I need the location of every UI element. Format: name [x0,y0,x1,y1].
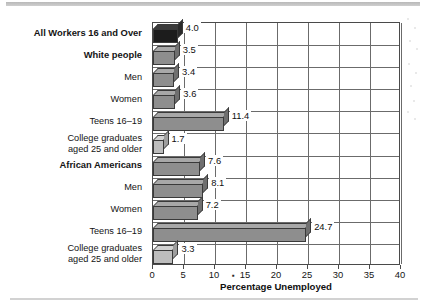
speck-3 [416,48,418,50]
category-label-6: African Americans [60,160,143,171]
speck-4 [408,63,410,65]
bar-0 [153,29,178,43]
x-tick-label-35: 35 [364,269,374,281]
bar-side-face [198,196,203,215]
bar-9 [153,228,306,242]
bar-front-face [153,117,224,131]
category-label-1: White people [84,50,142,61]
bar-side-face [203,174,208,193]
bar-side-face [173,240,178,259]
value-label-4: 11.4 [230,110,252,121]
bar-2 [153,73,174,87]
x-tick-label-5: 5 [180,269,185,281]
speck-8 [407,111,409,113]
category-label-column: All Workers 16 and OverWhite peopleMenWo… [0,22,148,265]
speck-7 [413,100,415,102]
bar-side-face [175,41,180,60]
bar-5 [153,140,164,154]
value-label-2: 3.4 [180,66,197,77]
bar-front-face [153,206,198,220]
page-bottom-rule [10,298,418,300]
speck-2 [409,40,411,42]
speck-9 [414,118,416,120]
bar-3 [153,95,175,109]
category-label-10: College graduates aged 25 and older [67,243,142,264]
speck-0 [407,18,409,20]
bar-8 [153,206,198,220]
category-label-0: All Workers 16 and Over [34,28,142,39]
bar-front-face [153,95,175,109]
bar-side-face [200,152,205,171]
gridline-row-5 [153,133,399,134]
bar-side-face [175,85,180,104]
speck-1 [414,27,416,29]
scan-artifact-mark: ▪ [232,271,235,280]
bar-side-face [178,19,183,38]
bar-7 [153,184,203,198]
bar-side-face [174,63,179,82]
value-label-1: 3.5 [181,44,198,55]
scan-speckle [405,14,419,124]
bar-front-face [153,162,200,176]
x-tick-label-10: 10 [209,269,219,281]
speck-6 [410,85,412,87]
x-tick-label-25: 25 [302,269,312,281]
bar-front-face [153,73,174,87]
bar-front-face [153,29,178,43]
x-axis-title: Percentage Unemployed [152,281,400,292]
plot-area [152,22,400,265]
value-label-7: 8.1 [209,177,226,188]
gridline-x-35 [370,23,371,264]
bar-front-face [153,51,175,65]
category-label-9: Teens 16–19 [89,226,142,237]
bar-front-face [153,228,306,242]
category-label-2: Men [124,72,142,83]
unemployment-bar-chart: All Workers 16 and OverWhite peopleMenWo… [0,0,426,306]
category-label-7: Men [124,182,142,193]
bar-10 [153,250,173,264]
x-tick-label-40: 40 [395,269,405,281]
value-label-6: 7.6 [206,155,223,166]
category-label-3: Women [111,94,143,105]
category-label-4: Teens 16–19 [89,116,142,127]
value-label-10: 3.3 [179,243,196,254]
value-label-3: 3.6 [181,88,198,99]
category-label-5: College graduates aged 25 and older [67,133,142,154]
x-tick-label-0: 0 [149,269,154,281]
speck-5 [415,72,417,74]
bar-1 [153,51,175,65]
bar-front-face [153,184,203,198]
bar-side-face [224,107,229,126]
gridline-x-30 [339,23,340,264]
x-tick-label-15: 15 [240,269,250,281]
x-tick-label-30: 30 [333,269,343,281]
value-label-9: 24.7 [312,221,334,232]
bar-front-face [153,250,173,264]
bar-6 [153,162,200,176]
value-label-0: 4.0 [184,22,201,33]
bar-4 [153,117,224,131]
value-label-5: 1.7 [170,133,187,144]
category-label-8: Women [111,204,143,215]
bar-front-face [153,140,164,154]
x-tick-label-20: 20 [271,269,281,281]
gridline-x-40 [401,23,402,264]
value-label-8: 7.2 [204,199,221,210]
bar-side-face [306,218,311,237]
